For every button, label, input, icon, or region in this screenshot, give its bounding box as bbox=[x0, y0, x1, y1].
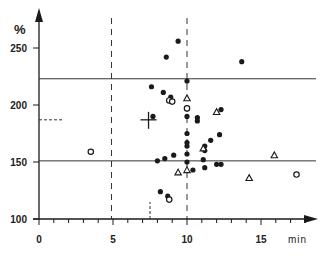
filled-circle-marker bbox=[190, 167, 195, 172]
open-triangle-marker bbox=[246, 175, 252, 181]
open-circle-marker bbox=[88, 149, 93, 154]
x-tick-label: 5 bbox=[110, 234, 116, 245]
filled-circle-marker bbox=[171, 153, 176, 158]
filled-circle-marker bbox=[195, 118, 200, 123]
filled-circle-marker bbox=[202, 165, 207, 170]
filled-circle-marker bbox=[164, 55, 169, 60]
open-triangle-marker bbox=[175, 169, 181, 175]
open-triangle-marker bbox=[184, 95, 190, 101]
filled-circle-marker bbox=[218, 107, 223, 112]
scatter-chart: 051015100150200250 % min bbox=[0, 0, 326, 261]
y-tick-label: 150 bbox=[10, 157, 27, 168]
y-tick-label: 200 bbox=[10, 100, 27, 111]
y-tick-label: 250 bbox=[10, 43, 27, 54]
data-points bbox=[88, 39, 299, 203]
x-tick-label: 10 bbox=[181, 234, 193, 245]
filled-circle-marker bbox=[184, 143, 189, 148]
open-circle-marker bbox=[167, 197, 172, 202]
open-circle-marker bbox=[184, 106, 189, 111]
x-tick-label: 0 bbox=[36, 234, 42, 245]
y-axis-arrow-icon bbox=[35, 8, 43, 22]
open-triangle-marker bbox=[271, 152, 277, 158]
filled-circle-marker bbox=[217, 132, 222, 137]
filled-circle-marker bbox=[155, 158, 160, 163]
y-axis-label: % bbox=[14, 22, 26, 37]
reference-lines bbox=[39, 18, 316, 219]
filled-circle-marker bbox=[218, 162, 223, 167]
filled-circle-marker bbox=[150, 114, 155, 119]
filled-circle-marker bbox=[184, 159, 189, 164]
x-axis-label: min bbox=[288, 234, 307, 245]
filled-circle-marker bbox=[184, 131, 189, 136]
filled-circle-marker bbox=[176, 39, 181, 44]
filled-circle-marker bbox=[214, 162, 219, 167]
filled-circle-marker bbox=[149, 84, 154, 89]
open-circle-marker bbox=[170, 99, 175, 104]
filled-circle-marker bbox=[162, 156, 167, 161]
x-tick-label: 15 bbox=[255, 234, 267, 245]
filled-circle-marker bbox=[184, 78, 189, 83]
filled-circle-marker bbox=[239, 59, 244, 64]
x-axis-arrow-icon bbox=[304, 215, 318, 223]
open-circle-marker bbox=[294, 172, 299, 177]
filled-circle-marker bbox=[158, 189, 163, 194]
axes: 051015100150200250 bbox=[10, 8, 318, 245]
filled-circle-marker bbox=[161, 90, 166, 95]
filled-circle-marker bbox=[184, 151, 189, 156]
filled-circle-marker bbox=[184, 114, 189, 119]
filled-circle-marker bbox=[201, 157, 206, 162]
y-tick-label: 100 bbox=[10, 214, 27, 225]
filled-circle-marker bbox=[208, 138, 213, 143]
open-triangle-marker bbox=[184, 167, 190, 173]
